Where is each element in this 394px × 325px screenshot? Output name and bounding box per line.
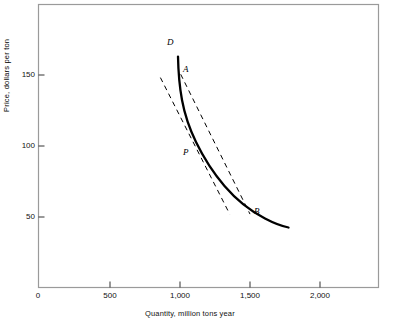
y-axis-title: Price, dollars per ton <box>2 100 11 112</box>
y-tick-label-150: 150 <box>10 70 35 79</box>
x-tick-label-500: 500 <box>93 291 127 300</box>
y-axis-title-wrapper: Price, dollars per ton <box>2 100 11 112</box>
chart-figure: 150 100 50 0 500 1,000 1,500 2,000 Quant… <box>0 0 394 325</box>
x-tick-label-1500: 1,500 <box>231 291 269 300</box>
label-d: D <box>167 37 174 47</box>
chart-canvas <box>0 0 394 325</box>
label-b: B <box>254 206 260 216</box>
x-tick-label-1000: 1,000 <box>161 291 199 300</box>
y-tick-label-100: 100 <box>10 141 35 150</box>
label-a: A <box>183 64 189 74</box>
x-tick-label-0: 0 <box>25 291 51 300</box>
label-p: P <box>183 147 189 157</box>
x-axis-title: Quantity, million tons year <box>145 309 235 318</box>
x-tick-label-2000: 2,000 <box>301 291 339 300</box>
y-tick-label-50: 50 <box>10 212 35 221</box>
plot-frame <box>39 5 379 288</box>
